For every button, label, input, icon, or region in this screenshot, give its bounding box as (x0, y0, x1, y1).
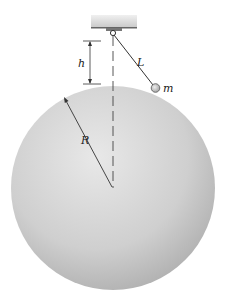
pendulum-string (114, 35, 153, 85)
bob-mass (151, 84, 160, 93)
h-arrow-up-icon (88, 41, 92, 46)
label-h: h (78, 57, 85, 70)
label-R: R (80, 134, 89, 147)
h-arrow-down-icon (88, 79, 92, 84)
pivot-icon (110, 30, 115, 35)
label-L: L (136, 56, 144, 69)
pendulum-sphere-diagram: h L m R (0, 0, 225, 295)
label-m: m (163, 82, 173, 95)
ceiling-block (91, 15, 137, 28)
